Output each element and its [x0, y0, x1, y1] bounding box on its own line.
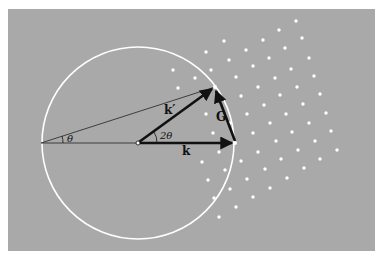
- lattice-point: [261, 38, 264, 41]
- k-tip-point: [233, 141, 237, 145]
- lattice-point: [206, 178, 209, 181]
- lattice-point: [262, 103, 265, 106]
- lattice-point: [234, 75, 237, 78]
- lattice-point: [284, 112, 287, 115]
- lattice-point: [251, 64, 254, 67]
- lattice-point: [211, 131, 214, 134]
- theta-label: θ: [67, 133, 73, 144]
- lattice-point: [301, 102, 304, 105]
- lattice-point: [300, 36, 303, 39]
- diagram-background: [8, 9, 375, 251]
- lattice-point: [239, 159, 242, 162]
- lattice-point: [273, 76, 276, 79]
- lattice-point: [245, 112, 248, 115]
- lattice-point: [324, 111, 327, 114]
- k-label: k: [182, 144, 191, 158]
- two-theta-label: 2θ: [159, 130, 172, 141]
- lattice-point: [263, 167, 266, 170]
- lattice-point: [268, 121, 271, 124]
- lattice-point: [222, 39, 225, 42]
- lattice-point: [294, 19, 297, 22]
- lattice-point: [251, 195, 254, 198]
- lattice-point: [204, 50, 207, 53]
- lattice-point: [279, 157, 282, 160]
- lattice-point: [245, 177, 248, 180]
- lattice-point: [256, 150, 259, 153]
- lattice-point: [290, 130, 293, 133]
- lattice-point: [223, 168, 226, 171]
- lattice-point: [244, 48, 247, 51]
- lattice-point: [283, 46, 286, 49]
- lattice-point: [267, 56, 270, 59]
- lattice-point: [228, 187, 231, 190]
- lattice-point: [227, 58, 230, 61]
- k-prime-label: k′: [164, 103, 175, 117]
- lattice-point: [204, 112, 207, 115]
- lattice-point: [278, 93, 281, 96]
- lattice-point: [289, 67, 292, 70]
- ewald-diagram: k k′ G θ 2θ: [0, 0, 382, 258]
- lattice-point: [329, 129, 332, 132]
- lattice-point: [274, 139, 277, 142]
- lattice-point: [256, 85, 259, 88]
- lattice-point: [209, 68, 212, 71]
- lattice-point: [217, 150, 220, 153]
- lattice-point: [176, 86, 179, 89]
- lattice-point: [318, 92, 321, 95]
- lattice-point: [277, 28, 280, 31]
- lattice-point: [313, 139, 316, 142]
- lattice-point: [312, 74, 315, 77]
- lattice-point: [217, 215, 220, 218]
- lattice-point: [307, 56, 310, 59]
- lattice-point: [295, 85, 298, 88]
- lattice-point: [251, 131, 254, 134]
- origin-point: [136, 141, 140, 145]
- lattice-point: [239, 94, 242, 97]
- lattice-point: [200, 160, 203, 163]
- lattice-point: [171, 68, 174, 71]
- lattice-point: [307, 121, 310, 124]
- lattice-point: [318, 157, 321, 160]
- lattice-point: [193, 76, 196, 79]
- lattice-point: [285, 176, 288, 179]
- lattice-point: [268, 186, 271, 189]
- lattice-point: [296, 148, 299, 151]
- G-label: G: [216, 110, 226, 124]
- lattice-point: [302, 166, 305, 169]
- lattice-point: [335, 148, 338, 151]
- k-prime-tip-point: [213, 85, 217, 89]
- lattice-point: [234, 205, 237, 208]
